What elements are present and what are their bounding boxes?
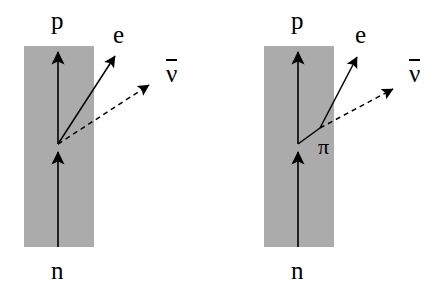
nu-letter-right: ν [409,60,420,87]
label-electron-left: e [113,22,124,47]
label-neutron-right: n [291,258,304,283]
label-proton-right: p [291,8,304,33]
diagram-canvas [0,0,444,297]
label-proton-left: p [51,8,64,33]
antineutrino-glyph-right: ν [409,58,420,86]
label-pion-right: π [318,136,329,158]
physics-diagram-figure: p n e ν p n e π ν [0,0,444,297]
nuclear-matter-slab-left [24,46,94,247]
label-antineutrino-right: ν [409,58,420,86]
label-electron-right: e [355,22,366,47]
left-panel [24,46,149,247]
overbar-right [409,59,420,61]
label-neutron-left: n [51,258,64,283]
overbar-left [166,59,177,61]
antineutrino-glyph-left: ν [166,58,177,86]
label-antineutrino-left: ν [166,58,177,86]
nu-letter-left: ν [166,60,177,87]
